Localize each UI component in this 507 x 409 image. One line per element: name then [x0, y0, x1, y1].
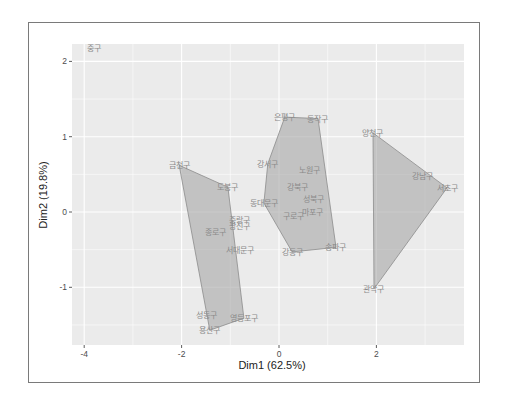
point-label: 양천구	[362, 128, 383, 138]
point-label: 강남구	[412, 171, 433, 181]
point-label: 성동구	[196, 311, 217, 320]
point-label: 영등포구	[230, 313, 258, 323]
x-tick-label: 2	[374, 349, 379, 359]
x-axis-ticks: -4-202	[80, 345, 379, 359]
point-label: 관악구	[363, 284, 384, 294]
point-label: 마포구	[302, 208, 323, 217]
point-label: 강서구	[257, 159, 278, 169]
y-tick-label: 2	[62, 56, 67, 66]
x-axis-title: Dim1 (62.5%)	[238, 359, 305, 371]
x-tick-label: -4	[80, 349, 88, 359]
cluster-scatter-chart: 중구금천구도봉구중랑구광진구종로구서대문구성동구용산구영등포구은평구동작구강서구…	[0, 0, 507, 409]
point-label: 구로구	[283, 212, 304, 221]
point-label: 도봉구	[217, 183, 238, 192]
point-label: 은평구	[274, 112, 295, 122]
x-tick-label: -2	[178, 349, 186, 359]
point-label: 서초구	[437, 184, 458, 193]
point-label: 광진구	[229, 221, 250, 231]
point-label: 용산구	[199, 325, 220, 335]
y-tick-label: -1	[59, 282, 67, 292]
point-label: 강북구	[287, 182, 308, 192]
point-label: 송파구	[325, 243, 346, 252]
y-axis-title: Dim2 (19.8%)	[37, 161, 49, 228]
point-label: 중구	[87, 44, 101, 53]
y-axis-ticks: -1012	[59, 56, 72, 292]
point-label: 동대문구	[250, 199, 278, 208]
point-label: 종로구	[205, 228, 226, 237]
y-tick-label: 1	[62, 132, 67, 142]
point-label: 성북구	[303, 195, 324, 204]
point-label: 서대문구	[226, 246, 254, 255]
point-label: 금천구	[169, 160, 190, 170]
y-tick-label: 0	[62, 207, 67, 217]
x-tick-label: 0	[277, 349, 282, 359]
point-label: 노원구	[299, 166, 320, 175]
point-label: 강동구	[282, 247, 303, 257]
point-label: 동작구	[307, 114, 328, 124]
